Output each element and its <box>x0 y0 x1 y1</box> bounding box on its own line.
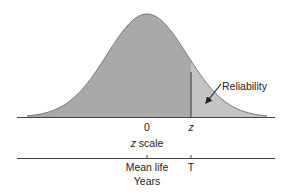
z-scale-word: scale <box>136 137 164 149</box>
z-scale-title: z scale <box>130 137 164 149</box>
years-axis-title: Years <box>134 175 160 187</box>
t-label: T <box>188 161 195 173</box>
curve-area-below-cutoff <box>27 14 267 117</box>
reliability-label: Reliability <box>222 80 268 92</box>
z-tick-label: z <box>187 121 194 133</box>
reliability-normal-curve-figure: Reliability 0 z z scale Mean life T Year… <box>0 0 290 194</box>
mean-life-label: Mean life <box>126 161 169 173</box>
z-zero-tick-label: 0 <box>144 121 150 133</box>
figure-canvas: Reliability 0 z z scale Mean life T Year… <box>0 0 290 194</box>
